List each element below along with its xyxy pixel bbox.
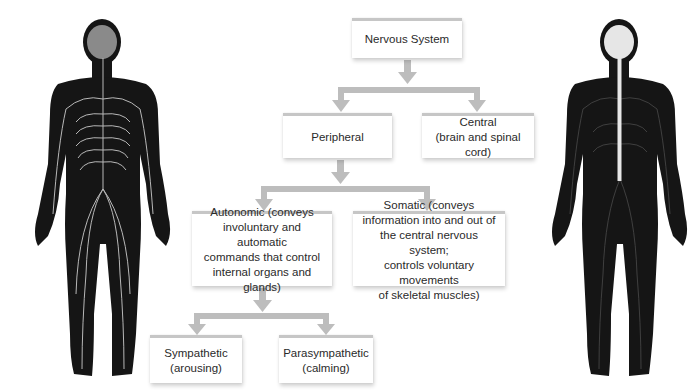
brain	[87, 25, 117, 59]
somatic-line-4: controls voluntary movements	[359, 258, 499, 288]
central-box: Central (brain and spinal cord)	[422, 113, 534, 158]
autonomic-line-1: Autonomic (conveys	[210, 205, 314, 220]
parasympathetic-box: Parasympathetic (calming)	[279, 335, 373, 383]
somatic-line-1: Somatic (conveys	[384, 198, 475, 213]
autonomic-line-4: internal organs and glands)	[198, 265, 326, 295]
peripheral-label: Peripheral	[311, 130, 363, 145]
somatic-line-2: information into and out of	[363, 213, 496, 228]
autonomic-line-2: involuntary and automatic	[198, 220, 326, 250]
autonomic-line-3: commands that control	[204, 250, 320, 265]
peripheral-box: Peripheral	[283, 113, 392, 158]
nervous-system-box: Nervous System	[352, 18, 462, 58]
sympathetic-label: Sympathetic	[164, 346, 227, 361]
somatic-box: Somatic (conveys information into and ou…	[353, 211, 505, 286]
somatic-line-5: of skeletal muscles)	[379, 288, 480, 303]
parasympathetic-sublabel: (calming)	[302, 361, 349, 376]
sympathetic-sublabel: (arousing)	[170, 361, 222, 376]
central-label: Central	[459, 115, 496, 130]
peripheral-nervous-system-figure	[8, 14, 173, 384]
brain	[604, 25, 634, 59]
nervous-system-label: Nervous System	[365, 32, 449, 47]
somatic-line-3: the central nervous system;	[359, 228, 499, 258]
autonomic-box: Autonomic (conveys involuntary and autom…	[192, 211, 332, 286]
parasympathetic-label: Parasympathetic	[283, 346, 369, 361]
central-nervous-system-figure	[525, 14, 690, 384]
central-sublabel: (brain and spinal cord)	[428, 130, 528, 160]
spinal-cord	[618, 56, 622, 181]
